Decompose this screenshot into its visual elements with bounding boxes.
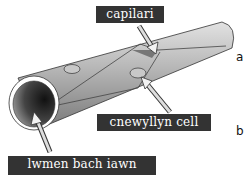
side-letter-b: b <box>236 124 244 138</box>
side-letter-a: a <box>236 50 243 64</box>
label-lumen: lwmen bach iawn <box>8 156 156 175</box>
capillary-illustration <box>0 0 245 175</box>
arrow-nucleus <box>141 77 170 112</box>
cell-nucleus <box>130 68 146 78</box>
label-cell-nucleus: cnewyllyn cell <box>97 114 211 131</box>
label-capillary: capilari <box>96 6 164 23</box>
cell-nucleus <box>64 65 80 74</box>
